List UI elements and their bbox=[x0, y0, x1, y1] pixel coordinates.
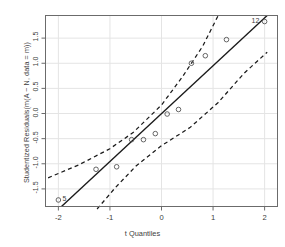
x-tick-label-4: 2 bbox=[255, 213, 275, 222]
confidence-band bbox=[48, 16, 267, 210]
gridlines bbox=[46, 16, 278, 207]
point-label-12: 12 bbox=[252, 17, 260, 24]
y-tick-label-5: -1.0 bbox=[31, 151, 38, 173]
x-tick-label-1: -1 bbox=[100, 213, 120, 222]
y-tick-label-2: 0.5 bbox=[31, 76, 38, 98]
y-tick-label-4: -0.5 bbox=[31, 126, 38, 148]
qq-plot-svg bbox=[0, 0, 285, 247]
y-tick-label-0: 1.5 bbox=[31, 26, 38, 48]
axis-ticks bbox=[42, 38, 265, 210]
chart-container: Studentized Residuals(m(A ~ N, data = m)… bbox=[0, 0, 285, 247]
x-tick-label-3: 1 bbox=[203, 213, 223, 222]
y-axis-label: Studentized Residuals(m(A ~ N, data = m)… bbox=[22, 25, 31, 201]
x-tick-label-2: 0 bbox=[152, 213, 172, 222]
y-tick-label-1: 1.0 bbox=[31, 51, 38, 73]
y-tick-label-3: 0.0 bbox=[31, 101, 38, 123]
point-label-5: 5 bbox=[62, 195, 66, 202]
y-tick-label-6: -1.5 bbox=[31, 176, 38, 198]
x-axis-label: t Quantiles bbox=[0, 229, 285, 238]
reference-line bbox=[61, 16, 267, 207]
x-tick-label-0: -2 bbox=[48, 213, 68, 222]
